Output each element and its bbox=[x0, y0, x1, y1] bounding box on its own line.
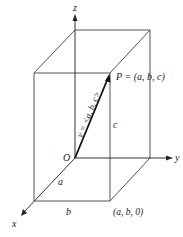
edge-label-c: c bbox=[113, 119, 118, 130]
origin-label: O bbox=[63, 152, 70, 163]
axes bbox=[24, 20, 168, 212]
base-point-label: (a, b, 0) bbox=[113, 207, 143, 218]
edge-label-b: b bbox=[66, 206, 71, 217]
x-axis bbox=[24, 158, 75, 212]
z-arrow-icon bbox=[73, 14, 78, 21]
edge-top-left bbox=[34, 30, 75, 73]
x-axis-label: x bbox=[11, 218, 17, 229]
edge-label-a: a bbox=[58, 176, 63, 187]
edge-bottom-right bbox=[110, 158, 150, 201]
y-axis-label: y bbox=[174, 152, 180, 163]
vector-label: v = <a, b, c> bbox=[75, 90, 103, 139]
y-arrow-icon bbox=[166, 156, 173, 161]
point-p-label: P = (a, b, c) bbox=[115, 71, 165, 83]
z-axis-label: z bbox=[72, 2, 77, 13]
edge-top-right bbox=[110, 30, 150, 73]
box-vector-diagram: z y x O P = (a, b, c) v = <a, b, c> c a … bbox=[0, 0, 183, 237]
